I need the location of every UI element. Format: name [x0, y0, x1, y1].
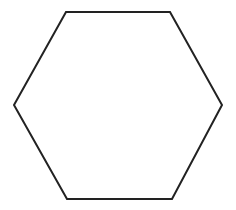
- diagram-canvas: [0, 0, 236, 210]
- hexagon-figure: [0, 0, 236, 210]
- hexagon-shape: [14, 12, 222, 199]
